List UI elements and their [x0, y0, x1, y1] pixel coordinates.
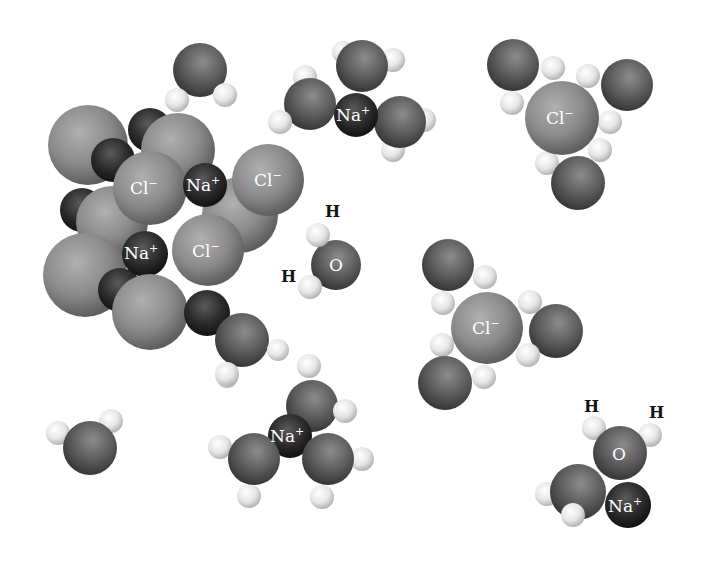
oxygen-atom	[487, 39, 539, 91]
hydrogen-atom	[500, 91, 524, 115]
oxygen-atom	[551, 156, 605, 210]
hydrated-chloride-top-right: Cl−	[487, 39, 653, 210]
hydrogen-atom	[576, 64, 600, 88]
hydrated-sodium-bottom: Na+	[208, 354, 374, 509]
hydrogen-atom	[297, 354, 321, 378]
hydrogen-atom	[310, 485, 334, 509]
nacl-dissolution-diagram: Cl− Cl− Na+ Na+ Cl− Na+ Cl−	[0, 0, 703, 580]
oxygen-atom	[302, 433, 354, 485]
oxygen-atom	[63, 421, 117, 475]
diagram-canvas: Cl− Cl− Na+ Na+ Cl− Na+ Cl−	[0, 0, 703, 580]
oxygen-atom	[374, 96, 426, 148]
hydrogen-atom	[431, 291, 455, 315]
hydrogen-atom	[165, 88, 189, 112]
hydrogen-label: H	[649, 403, 664, 422]
hydrogen-atom	[598, 110, 622, 134]
oxygen-label: O	[329, 255, 343, 275]
hydrogen-atom	[516, 343, 540, 367]
hydrogen-atom	[298, 275, 322, 299]
hydrogen-label: H	[584, 397, 599, 416]
hydrated-chloride-middle-right: Cl−	[418, 239, 583, 410]
hydrogen-atom	[473, 265, 497, 289]
hydrogen-atom	[518, 290, 542, 314]
hydrogen-atom	[215, 362, 239, 386]
hydrogen-atom	[237, 484, 261, 508]
hydrogen-atom	[472, 365, 496, 389]
oxygen-atom	[601, 59, 653, 111]
hydrogen-atom	[213, 83, 237, 107]
hydrogen-atom	[430, 333, 454, 357]
oxygen-atom	[336, 40, 388, 92]
hydrogen-atom	[588, 138, 612, 162]
chloride-ion	[112, 274, 188, 350]
oxygen-label: O	[612, 444, 626, 464]
nacl-crystal: Cl− Cl− Na+ Na+ Cl−	[43, 105, 304, 350]
water-molecule-labeled: O H H	[281, 202, 361, 299]
hydrogen-atom	[541, 56, 565, 80]
hydrogen-atom	[333, 399, 357, 423]
oxygen-atom	[422, 239, 474, 291]
hydrogen-atom	[268, 110, 292, 134]
oxygen-atom	[418, 356, 472, 410]
hydrogen-atom	[561, 503, 585, 527]
hydrogen-label: H	[325, 202, 340, 221]
water-sodium-bottom-right: O Na+ H H	[535, 397, 664, 528]
oxygen-atom	[215, 313, 269, 367]
water-molecule-top	[165, 43, 237, 112]
hydrated-sodium-top: Na+	[268, 40, 436, 162]
hydrogen-atom	[306, 223, 330, 247]
hydrogen-atom	[267, 339, 289, 361]
water-molecule-bottom-left	[46, 409, 123, 475]
hydrogen-label: H	[281, 267, 296, 286]
